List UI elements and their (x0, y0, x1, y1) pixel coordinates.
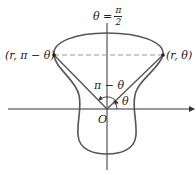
point-left-label: (r, π − θ) (5, 50, 55, 61)
point-right (161, 53, 165, 57)
angle-right-label: θ (122, 96, 129, 107)
angle-left-label: π − θ (94, 80, 124, 91)
point-right-label: (r, θ) (166, 50, 192, 61)
axis-label-theta-pi-over-2: θ =π2 (93, 6, 122, 27)
polar-curve (54, 33, 163, 154)
origin-label: O (98, 114, 107, 125)
